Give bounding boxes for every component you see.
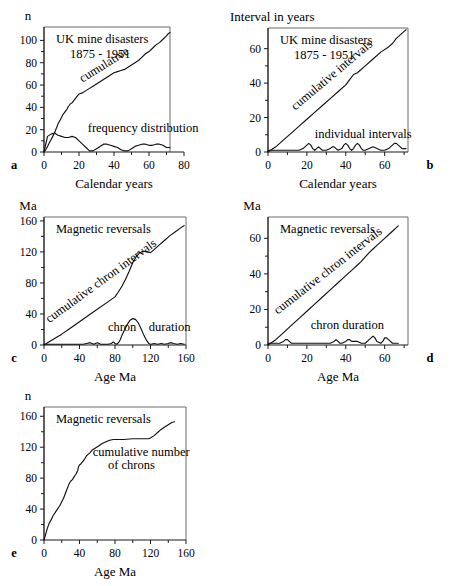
x-tick-label: 40 <box>108 159 120 171</box>
x-tick-label: 60 <box>379 159 391 171</box>
y-tick-label: 80 <box>26 472 38 484</box>
chart-svg-a: 020406080100020406080UK mine disasters18… <box>0 0 228 195</box>
x-tick-label: 160 <box>177 547 195 559</box>
y-tick-label: 60 <box>26 79 38 91</box>
x-tick-label: 0 <box>265 159 271 171</box>
y-tick-label: 120 <box>20 246 38 258</box>
x-axis-title: Age Ma <box>94 564 136 579</box>
y-tick-label: 120 <box>20 441 38 453</box>
x-tick-label: 20 <box>301 352 313 364</box>
panel-title-line: Magnetic reversals <box>280 222 375 236</box>
x-tick-label: 120 <box>142 352 160 364</box>
y-axis-unit-label: Ma <box>19 198 37 213</box>
panel-title-line: Magnetic reversals <box>56 412 151 426</box>
data-series-chron-duration <box>268 336 398 343</box>
x-tick-label: 40 <box>340 352 352 364</box>
y-tick-label: 0 <box>31 339 37 351</box>
chart-svg-e: 0408012016004080120160Magnetic reversals… <box>0 390 240 586</box>
x-axis-title: Age Ma <box>317 369 359 384</box>
y-tick-label: 0 <box>255 339 261 351</box>
chart-panel-c: 0408012016004080120160Magnetic reversals… <box>0 195 228 391</box>
curve-annotation: cumulative chron intervals <box>271 224 385 317</box>
y-tick-label: 40 <box>250 77 262 89</box>
panel-title-line: Magnetic reversals <box>56 222 151 236</box>
x-tick-label: 80 <box>178 159 190 171</box>
x-tick-label: 0 <box>41 352 47 364</box>
x-tick-label: 20 <box>301 159 313 171</box>
chart-svg-b: 02040600204060UK mine disasters1875 - 19… <box>228 0 456 195</box>
y-axis-unit-label: n <box>25 8 32 23</box>
panel-letter-d: d <box>427 351 434 365</box>
y-tick-label: 0 <box>31 146 37 158</box>
x-axis-title: Calendar years <box>299 176 377 191</box>
curve-annotation: individual intervals <box>315 127 412 141</box>
y-tick-label: 20 <box>250 303 262 315</box>
panel-letter-c: c <box>11 351 17 365</box>
curve-annotation: cumulative chron intervals <box>43 236 159 326</box>
panel-title-line: UK mine disasters <box>56 32 148 46</box>
y-tick-label: 20 <box>26 124 38 136</box>
curve-annotation: of chrons <box>108 458 155 472</box>
y-tick-label: 40 <box>250 268 262 280</box>
chart-panel-e: 0408012016004080120160Magnetic reversals… <box>0 390 240 586</box>
y-tick-label: 40 <box>26 308 38 320</box>
y-tick-label: 0 <box>31 534 37 546</box>
chart-svg-d: 02040600204060Magnetic reversalscumulati… <box>228 195 456 391</box>
y-axis-unit-label: n <box>25 388 32 403</box>
y-tick-label: 60 <box>250 232 262 244</box>
curve-annotation: duration <box>149 320 191 334</box>
chart-panel-d: 02040600204060Magnetic reversalscumulati… <box>228 195 456 391</box>
y-tick-label: 80 <box>26 57 38 69</box>
panel-letter-b: b <box>427 158 434 172</box>
y-tick-label: 160 <box>20 410 38 422</box>
y-tick-label: 100 <box>20 34 38 46</box>
x-tick-label: 0 <box>41 547 47 559</box>
x-tick-label: 40 <box>74 547 86 559</box>
x-tick-label: 160 <box>177 352 195 364</box>
panel-letter-e: e <box>11 546 17 560</box>
y-axis-unit-label: Interval in years <box>230 9 314 24</box>
x-tick-label: 80 <box>109 547 121 559</box>
curve-annotation: frequency distribution <box>88 121 199 135</box>
y-tick-label: 80 <box>26 277 38 289</box>
curve-annotation: chron <box>108 320 137 334</box>
data-series-cumulative-number-of-chrons <box>44 422 174 540</box>
data-series-individual-intervals <box>268 143 406 150</box>
y-tick-label: 60 <box>250 43 262 55</box>
x-tick-label: 40 <box>74 352 86 364</box>
x-tick-label: 20 <box>73 159 85 171</box>
x-tick-label: 60 <box>143 159 155 171</box>
chart-panel-a: 020406080100020406080UK mine disasters18… <box>0 0 228 195</box>
x-tick-label: 0 <box>265 352 271 364</box>
y-tick-label: 40 <box>26 101 38 113</box>
data-series-frequency-distribution <box>44 133 170 152</box>
y-tick-label: 20 <box>250 112 262 124</box>
x-tick-label: 40 <box>340 159 352 171</box>
curve-annotation: chron duration <box>311 318 385 332</box>
y-tick-label: 0 <box>255 146 261 158</box>
panel-letter-a: a <box>11 158 18 172</box>
x-tick-label: 120 <box>142 547 160 559</box>
chart-panel-b: 02040600204060UK mine disasters1875 - 19… <box>228 0 456 195</box>
x-axis-title: Age Ma <box>94 369 136 384</box>
x-tick-label: 80 <box>109 352 121 364</box>
x-axis-title: Calendar years <box>75 176 153 191</box>
x-tick-label: 60 <box>379 352 391 364</box>
x-tick-label: 0 <box>41 159 47 171</box>
y-tick-label: 160 <box>20 215 38 227</box>
y-tick-label: 40 <box>26 503 38 515</box>
figure-magnetic-reversals-mine-disasters: 020406080100020406080UK mine disasters18… <box>0 0 456 586</box>
chart-svg-c: 0408012016004080120160Magnetic reversals… <box>0 195 228 391</box>
y-axis-unit-label: Ma <box>243 198 261 213</box>
